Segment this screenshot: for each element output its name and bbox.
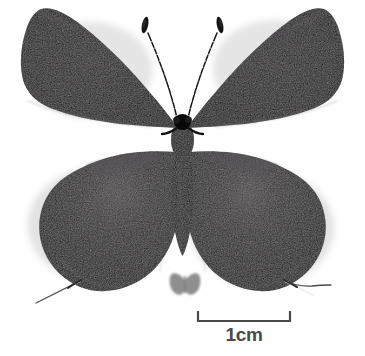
butterfly-silhouette-thumbnail: [170, 273, 201, 294]
scale-bar-label: 1cm: [197, 324, 291, 346]
specimen-image: [0, 0, 365, 356]
right-eye: [185, 116, 192, 123]
left-eye: [173, 116, 180, 123]
specimen-photo-plate: 1cm: [0, 0, 365, 356]
